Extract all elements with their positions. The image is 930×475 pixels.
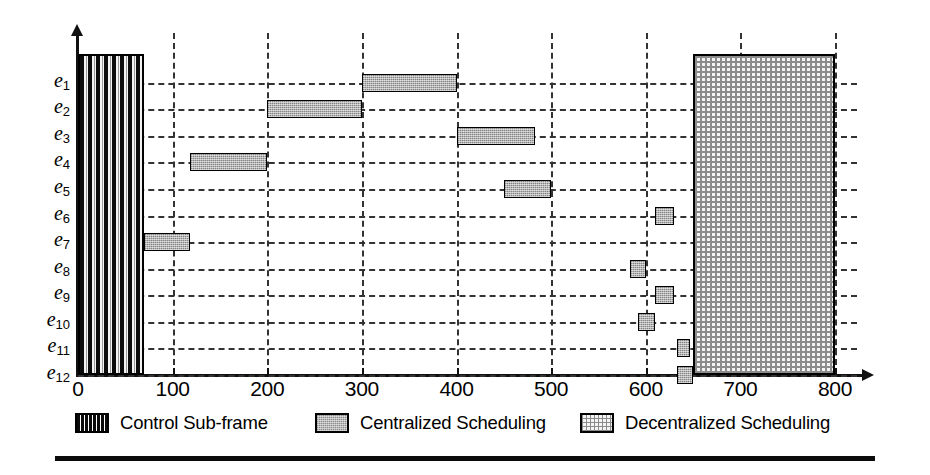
task-bar-e12 bbox=[677, 366, 693, 384]
task-bar-e4 bbox=[190, 153, 268, 171]
block-control-sub-frame bbox=[78, 54, 144, 375]
x-tick-label-300: 300 bbox=[332, 377, 392, 401]
bottom-rule bbox=[55, 456, 875, 461]
task-bar-e5 bbox=[504, 180, 551, 198]
y-axis-label-e4: e4 bbox=[54, 149, 70, 171]
y-axis-label-e12: e12 bbox=[47, 362, 70, 384]
y-axis-label-e7: e7 bbox=[54, 229, 70, 251]
y-axis-label-e5: e5 bbox=[54, 176, 70, 198]
x-tick-mark-600 bbox=[646, 368, 648, 375]
task-bar-e1 bbox=[362, 74, 457, 92]
x-tick-mark-200 bbox=[267, 368, 269, 375]
x-tick-mark-400 bbox=[457, 368, 459, 375]
y-axis-label-e6: e6 bbox=[54, 203, 70, 225]
x-tick-mark-800 bbox=[835, 368, 837, 375]
task-bar-e9 bbox=[655, 286, 674, 304]
y-axis-label-layer: e1e2e3e4e5e6e7e8e9e10e11e12 bbox=[0, 0, 70, 475]
task-bar-e8 bbox=[630, 260, 646, 278]
legend-item-0: Control Sub-frame bbox=[75, 412, 268, 434]
legend-label-2: Decentralized Scheduling bbox=[625, 412, 830, 434]
x-tick-label-600: 600 bbox=[616, 377, 676, 401]
y-axis-label-e1: e1 bbox=[54, 70, 70, 92]
legend-label-1: Centralized Scheduling bbox=[360, 412, 546, 434]
decentralized-swatch bbox=[580, 413, 614, 433]
legend: Control Sub-frameCentralized SchedulingD… bbox=[0, 406, 930, 440]
x-tick-mark-100 bbox=[173, 368, 175, 375]
legend-item-2: Decentralized Scheduling bbox=[580, 412, 830, 434]
task-bar-e3 bbox=[457, 127, 536, 145]
task-bar-e11 bbox=[677, 339, 690, 357]
y-axis-label-e9: e9 bbox=[54, 282, 70, 304]
legend-label-0: Control Sub-frame bbox=[120, 412, 268, 434]
x-tick-label-700: 700 bbox=[710, 377, 770, 401]
task-bar-e2 bbox=[267, 100, 362, 118]
centralized-swatch bbox=[315, 413, 349, 433]
y-axis-label-e8: e8 bbox=[54, 256, 70, 278]
x-tick-label-500: 500 bbox=[521, 377, 581, 401]
gantt-chart-figure: 0100200300400500600700800 e1e2e3e4e5e6e7… bbox=[0, 0, 930, 475]
y-axis-label-e2: e2 bbox=[54, 96, 70, 118]
x-tick-label-100: 100 bbox=[143, 377, 203, 401]
y-axis-label-e10: e10 bbox=[47, 309, 70, 331]
control-swatch bbox=[75, 413, 109, 433]
legend-item-1: Centralized Scheduling bbox=[315, 412, 546, 434]
y-axis-label-e3: e3 bbox=[54, 123, 70, 145]
x-tick-label-400: 400 bbox=[427, 377, 487, 401]
x-tick-label-800: 800 bbox=[805, 377, 865, 401]
x-tick-mark-300 bbox=[362, 368, 364, 375]
block-decentralized-scheduling bbox=[693, 54, 835, 375]
task-bar-e6 bbox=[655, 207, 674, 225]
task-bar-e7 bbox=[144, 233, 189, 251]
x-tick-mark-500 bbox=[551, 368, 553, 375]
y-axis-label-e11: e11 bbox=[48, 335, 70, 357]
task-bar-e10 bbox=[638, 313, 655, 331]
x-tick-label-200: 200 bbox=[237, 377, 297, 401]
y-axis-arrow bbox=[71, 24, 83, 36]
